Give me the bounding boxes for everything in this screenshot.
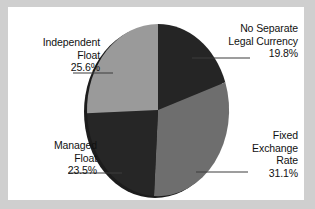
label-percent: 19.8%	[228, 47, 298, 60]
label-line-1: No Separate	[228, 22, 298, 35]
label-line-1: Independent	[16, 36, 100, 49]
pie-chart-figure: No Separate Legal Currency 19.8% Fixed E…	[0, 0, 315, 209]
label-line-2: Float	[13, 152, 97, 165]
label-line-2: Legal Currency	[228, 35, 298, 48]
label-percent: 23.5%	[13, 164, 97, 177]
label-independent-float: Independent Float 25.6%	[16, 36, 100, 74]
label-managed-float: Managed Float 23.5%	[13, 139, 97, 177]
label-line-2: Exchange	[252, 142, 298, 155]
pie-slice-managed-float[interactable]	[87, 110, 158, 196]
label-fixed-exchange-rate: Fixed Exchange Rate 31.1%	[252, 129, 298, 179]
label-percent: 25.6%	[16, 61, 100, 74]
pie-slices	[87, 24, 229, 196]
label-line-1: Managed	[13, 139, 97, 152]
label-percent: 31.1%	[252, 167, 298, 180]
label-line-1: Fixed	[252, 129, 298, 142]
label-line-2: Float	[16, 49, 100, 62]
label-line-3: Rate	[252, 154, 298, 167]
label-no-separate-legal-currency: No Separate Legal Currency 19.8%	[228, 22, 298, 60]
